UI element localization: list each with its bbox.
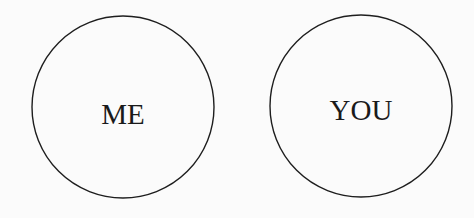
label-you: YOU: [330, 94, 393, 126]
me-you-diagram: ME YOU: [0, 0, 474, 218]
diagram-canvas: ME YOU: [0, 0, 474, 218]
circle-me-group: ME: [32, 16, 214, 198]
circle-you-group: YOU: [270, 15, 452, 197]
label-me: ME: [101, 98, 145, 130]
